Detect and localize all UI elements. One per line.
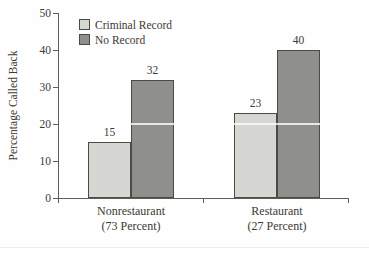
scan-artifact-line [0, 247, 369, 248]
bar-value-label: 23 [234, 96, 277, 110]
x-axis-tick [203, 198, 204, 203]
legend-label-no-record: No Record [95, 34, 145, 46]
category-label-line1: Nonrestaurant [66, 204, 196, 219]
y-axis-tick [53, 87, 58, 88]
x-axis-tick [58, 198, 59, 203]
y-tick-label: 20 [20, 118, 51, 130]
y-axis-tick [53, 124, 58, 125]
category-label-line2: (27 Percent) [212, 219, 342, 234]
category-label-restaurant: Restaurant(27 Percent) [212, 204, 342, 234]
bar-value-label: 15 [88, 125, 131, 139]
category-label-nonrestaurant: Nonrestaurant(73 Percent) [66, 204, 196, 234]
category-label-line2: (73 Percent) [66, 219, 196, 234]
y-tick-label: 30 [20, 81, 51, 93]
y-axis-tick [53, 161, 58, 162]
legend-label-criminal-record: Criminal Record [95, 19, 172, 31]
y-tick-label: 0 [20, 192, 51, 204]
bar-criminal-record-2 [234, 113, 277, 198]
x-axis-tick [348, 198, 349, 203]
legend: Criminal Record No Record [79, 17, 172, 47]
overlay-gridline [59, 123, 348, 125]
y-axis-tick [53, 13, 58, 14]
y-tick-label: 10 [20, 155, 51, 167]
legend-item-no-record: No Record [79, 32, 172, 47]
bar-value-label: 40 [277, 33, 320, 47]
bar-criminal-record-1 [88, 142, 131, 198]
bar-chart: Percentage Called Back Criminal Record N… [0, 0, 369, 253]
y-axis-tick [53, 50, 58, 51]
y-tick-label: 50 [20, 7, 51, 19]
bar-value-label: 32 [131, 63, 174, 77]
y-tick-label: 40 [20, 44, 51, 56]
bar-no-record-1 [131, 80, 174, 198]
legend-swatch-criminal-record-icon [79, 19, 90, 30]
legend-swatch-no-record-icon [79, 34, 90, 45]
legend-item-criminal-record: Criminal Record [79, 17, 172, 32]
y-axis-line [58, 13, 59, 199]
category-label-line1: Restaurant [212, 204, 342, 219]
